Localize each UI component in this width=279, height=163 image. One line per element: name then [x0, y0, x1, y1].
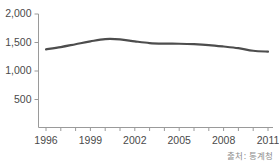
x-axis-tick-label: 2011	[248, 134, 279, 146]
y-axis-tick-label: 1,500	[0, 36, 32, 48]
x-axis-ticks	[46, 128, 268, 132]
x-axis-tick-label: 1996	[26, 134, 66, 146]
y-axis-tick-label: 1,000	[0, 64, 32, 76]
line-chart: 5001,0001,5002,000 199619992002200520082…	[0, 0, 279, 163]
data-line-series-1	[46, 39, 268, 52]
x-axis-tick-label: 2008	[204, 134, 244, 146]
y-axis-ticks	[35, 14, 39, 100]
x-axis-tick-label: 2005	[159, 134, 199, 146]
y-axis-tick-label: 500	[0, 93, 32, 105]
x-axis-tick-label: 2002	[115, 134, 155, 146]
axes	[39, 14, 274, 128]
y-axis-tick-label: 2,000	[0, 7, 32, 19]
x-axis-tick-label: 1999	[70, 134, 110, 146]
source-note: 출처: 통계청	[227, 149, 273, 161]
